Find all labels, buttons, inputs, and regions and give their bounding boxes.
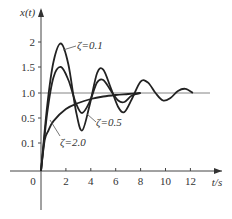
x-tick-label: 0 xyxy=(30,175,36,187)
series-annotation-0.1: ζ=0.1 xyxy=(77,39,103,52)
plot-area: 0.10.51.01.52024681012t/sx(t)ζ=0.1ζ=0.5ζ… xyxy=(0,0,232,219)
annotation-leader xyxy=(63,46,76,50)
annotation-leader xyxy=(87,114,96,122)
y-tick-label: 0.5 xyxy=(21,112,35,124)
y-tick-label: 0.1 xyxy=(21,137,35,149)
annotation-leader xyxy=(50,120,60,136)
x-tick-label: 10 xyxy=(160,175,172,187)
series-annotation-2.0: ζ=2.0 xyxy=(60,136,86,149)
series-annotation-0.5: ζ=0.5 xyxy=(96,116,122,129)
y-axis-label: x(t) xyxy=(19,6,36,19)
x-tick-label: 4 xyxy=(88,175,94,187)
step-response-chart: 0.10.51.01.52024681012t/sx(t)ζ=0.1ζ=0.5ζ… xyxy=(0,0,232,219)
y-tick-label: 1.5 xyxy=(21,61,35,73)
series-line-3 xyxy=(41,93,141,171)
x-tick-label: 6 xyxy=(113,175,119,187)
x-tick-label: 2 xyxy=(63,175,69,187)
series-line-1 xyxy=(41,43,193,171)
x-tick-label: 8 xyxy=(138,175,144,187)
x-tick-label: 12 xyxy=(185,175,196,187)
x-axis-label: t/s xyxy=(212,176,222,188)
x-axis-arrow-icon xyxy=(214,168,222,174)
y-tick-label: 2 xyxy=(30,36,36,48)
y-tick-label: 1.0 xyxy=(21,87,35,99)
y-axis-arrow-icon xyxy=(38,8,44,17)
